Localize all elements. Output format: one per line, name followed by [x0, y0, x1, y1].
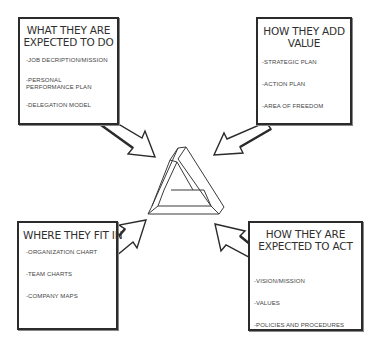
list-item: PERSONAL PERFORMANCE PLAN: [26, 77, 106, 91]
box-title: WHERE THEY FIT IN: [19, 229, 116, 241]
box-title: HOW THEY ADD VALUE: [258, 25, 350, 49]
box-how-they-are-expected-to-act: HOW THEY ARE EXPECTED TO ACT VISION/MISS…: [248, 221, 363, 331]
box-what-they-are-expected-to-do: WHAT THEY ARE EXPECTED TO DO JOB DECRIPT…: [18, 17, 119, 125]
list-item: VISION/MISSION: [254, 278, 361, 285]
box-where-they-fit-in: WHERE THEY FIT IN ORGANIZATION CHART TEA…: [17, 221, 118, 330]
list-item: DELEGATION MODEL: [26, 102, 117, 109]
list-item: ACTION PLAN: [262, 81, 350, 88]
box-how-they-add-value: HOW THEY ADD VALUE STRATEGIC PLAN ACTION…: [256, 17, 352, 125]
title-line: HOW THEY ARE: [250, 228, 361, 240]
list-item: POLICIES AND PROCEDURES: [254, 322, 361, 329]
list-item: STRATEGIC PLAN: [262, 59, 350, 66]
list-item: AREA OF FREEDOM: [262, 103, 350, 110]
list-item: TEAM CHARTS: [26, 271, 116, 278]
title-line: VALUE: [258, 37, 350, 49]
title-line: EXPECTED TO ACT: [250, 240, 361, 252]
item-list: STRATEGIC PLAN ACTION PLAN AREA OF FREED…: [258, 59, 350, 110]
title-line: HOW THEY ADD: [258, 25, 350, 37]
list-item: VALUES: [254, 300, 361, 307]
box-title: WHAT THEY ARE EXPECTED TO DO: [20, 24, 117, 48]
penrose-triangle-icon: [148, 147, 224, 214]
list-item: COMPANY MAPS: [26, 293, 116, 300]
title-line: WHERE THEY FIT IN: [23, 229, 116, 241]
item-list: JOB DECRIPTION/MISSION PERSONAL PERFORMA…: [20, 57, 117, 109]
list-item: ORGANIZATION CHART: [26, 249, 116, 256]
list-item: JOB DECRIPTION/MISSION: [26, 57, 117, 64]
box-title: HOW THEY ARE EXPECTED TO ACT: [250, 228, 361, 252]
title-line: EXPECTED TO DO: [20, 36, 117, 48]
item-list: ORGANIZATION CHART TEAM CHARTS COMPANY M…: [19, 249, 116, 300]
arrow-down-left-icon: [214, 122, 271, 155]
item-list: VISION/MISSION VALUES POLICIES AND PROCE…: [250, 278, 361, 329]
title-line: WHAT THEY ARE: [20, 24, 117, 36]
